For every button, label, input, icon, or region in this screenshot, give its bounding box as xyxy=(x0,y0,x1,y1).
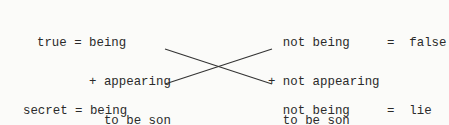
true-line-1: true = being xyxy=(37,37,171,50)
lie-line-1: not being = lie xyxy=(268,105,432,118)
false-line-1: not being = false xyxy=(268,37,446,50)
block-lie: not being = lie + appearing to be son xyxy=(268,79,432,125)
secret-line-1: secret = being xyxy=(23,105,201,118)
block-secret: secret = being + not appearing to be son xyxy=(23,79,201,125)
